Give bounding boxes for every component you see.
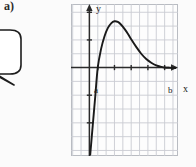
point-label-a: a [94,86,98,95]
figure-root: a) . y x a b [0,0,196,167]
y-axis-label: y [96,4,101,14]
part-label: a) [4,0,14,14]
point-label-b: b [168,86,173,95]
x-axis-label: x [183,84,188,94]
callout-bubble: . [0,27,48,87]
graph-plot [71,4,178,156]
